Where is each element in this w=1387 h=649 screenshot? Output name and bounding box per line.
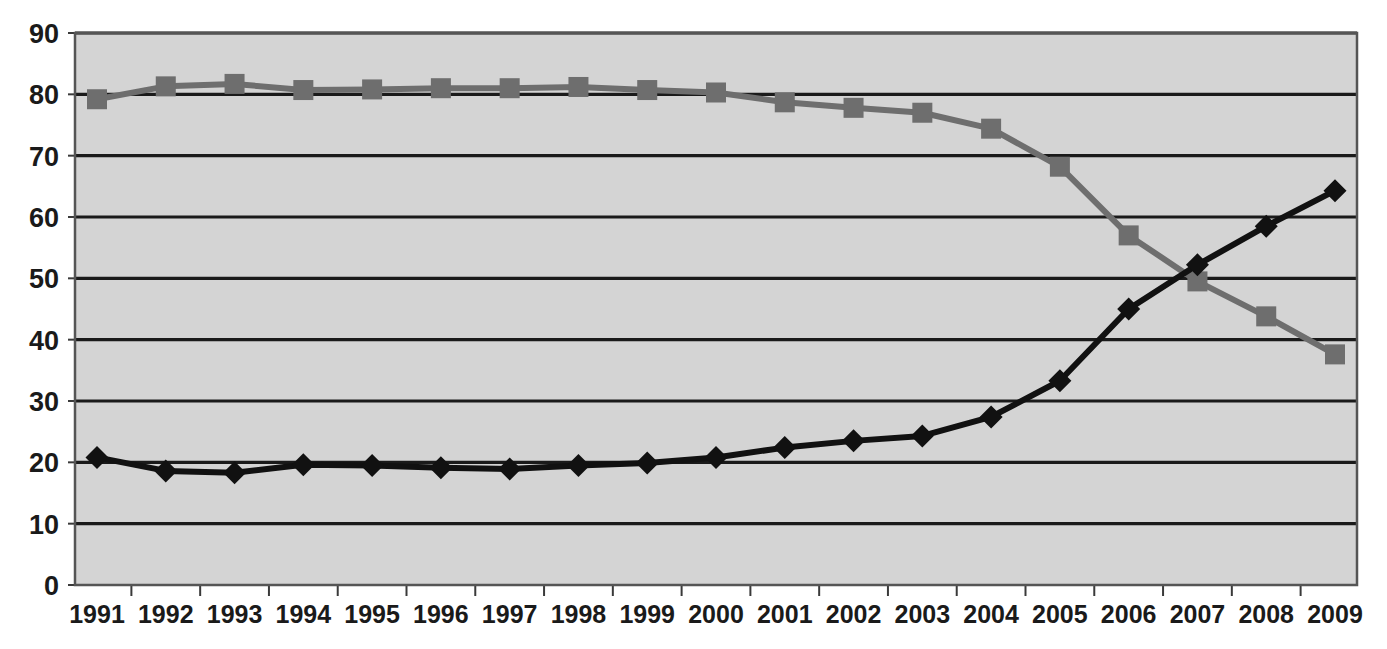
y-axis-tick-label: 90 xyxy=(29,19,59,49)
data-point-marker xyxy=(1325,344,1345,364)
x-axis-tick-label: 1994 xyxy=(276,600,332,628)
data-point-marker xyxy=(362,79,382,99)
data-point-marker xyxy=(87,89,107,109)
x-axis-tick-label: 1999 xyxy=(619,600,675,628)
data-point-marker xyxy=(706,82,726,102)
data-point-marker xyxy=(500,78,520,98)
data-point-marker xyxy=(156,76,176,96)
x-axis-tick-label: 2009 xyxy=(1307,600,1363,628)
line-chart: 0102030405060708090 19911992199319941995… xyxy=(0,0,1387,649)
x-axis-tick-label: 2001 xyxy=(757,600,813,628)
x-axis-tick-label: 2000 xyxy=(688,600,744,628)
data-point-marker xyxy=(981,119,1001,139)
y-axis-tick-label: 30 xyxy=(29,387,59,417)
y-axis-tick-label: 10 xyxy=(29,510,59,540)
x-axis-tick-label: 2003 xyxy=(895,600,951,628)
data-point-marker xyxy=(637,80,657,100)
data-point-marker xyxy=(1050,157,1070,177)
chart-container: 0102030405060708090 19911992199319941995… xyxy=(0,0,1387,649)
y-axis-tick-label: 80 xyxy=(29,80,59,110)
data-point-marker xyxy=(1119,225,1139,245)
y-axis-tick-label: 0 xyxy=(44,571,59,601)
x-axis-tick-label: 1998 xyxy=(551,600,607,628)
data-point-marker xyxy=(293,80,313,100)
x-axis-tick-label: 1996 xyxy=(413,600,469,628)
data-point-marker xyxy=(775,92,795,112)
x-axis-tick-label: 2005 xyxy=(1032,600,1088,628)
data-point-marker xyxy=(912,103,932,123)
x-axis-tick-label: 2007 xyxy=(1170,600,1226,628)
data-point-marker xyxy=(568,77,588,97)
x-axis-tick-label: 1991 xyxy=(69,600,125,628)
x-axis-tick-label: 1993 xyxy=(207,600,263,628)
x-axis-tick-label: 1995 xyxy=(344,600,400,628)
y-axis-tick-label: 20 xyxy=(29,448,59,478)
data-point-marker xyxy=(1256,306,1276,326)
y-axis-tick-label: 40 xyxy=(29,326,59,356)
x-axis-tick-label: 2008 xyxy=(1238,600,1294,628)
y-axis-tick-label: 50 xyxy=(29,264,59,294)
y-axis-tick-label: 60 xyxy=(29,203,59,233)
data-point-marker xyxy=(844,98,864,118)
x-axis-tick-label: 1997 xyxy=(482,600,538,628)
data-point-marker xyxy=(225,74,245,94)
data-point-marker xyxy=(431,78,451,98)
x-axis-tick-label: 2002 xyxy=(826,600,882,628)
plot-area-background xyxy=(75,33,1357,585)
x-axis-tick-label: 2004 xyxy=(963,600,1019,628)
y-axis-tick-label: 70 xyxy=(29,142,59,172)
x-axis-tick-label: 1992 xyxy=(138,600,194,628)
x-axis-tick-label: 2006 xyxy=(1101,600,1157,628)
